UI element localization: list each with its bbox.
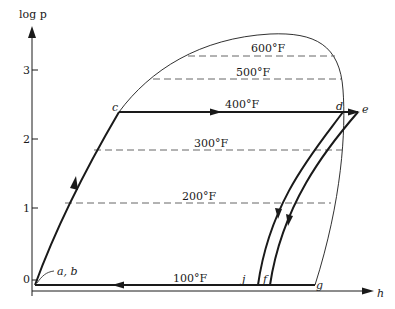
- y-axis-arrow-icon: [28, 26, 36, 38]
- point-label-g: g: [316, 279, 323, 292]
- process-b-c: [35, 112, 119, 285]
- isotherm-label-100: 100°F: [173, 272, 207, 285]
- arrow-g-a-icon: [112, 282, 124, 289]
- saturation-dome: [119, 34, 344, 285]
- isotherm-label-400: 400°F: [225, 98, 259, 111]
- point-label-c: c: [112, 101, 118, 114]
- y-tick-1: 1: [23, 202, 30, 215]
- isotherm-label-500: 500°F: [236, 66, 270, 79]
- isotherm-lines: [65, 56, 344, 203]
- y-axis-label: log p: [19, 8, 47, 21]
- isotherm-label-600: 600°F: [251, 42, 285, 55]
- y-tick-0: 0: [23, 273, 30, 286]
- isotherm-label-200: 200°F: [182, 190, 216, 203]
- point-label-ab: a, b: [57, 265, 78, 278]
- y-tick-3: 3: [23, 64, 30, 77]
- x-axis-arrow-icon: [362, 288, 374, 295]
- process-d-j: [258, 112, 343, 285]
- process-e-f: [270, 112, 358, 285]
- arrow-c-d-icon: [210, 109, 222, 116]
- point-label-e: e: [362, 103, 369, 116]
- y-tick-2: 2: [23, 133, 30, 146]
- log-p-h-diagram: log p 3 2 1 0 h 600°F 500°F 400°F 300°F …: [0, 0, 395, 309]
- point-label-d: d: [336, 100, 343, 113]
- x-axis-label: h: [377, 287, 384, 300]
- arrow-b-c-icon: [70, 176, 78, 190]
- isotherm-label-300: 300°F: [194, 137, 228, 150]
